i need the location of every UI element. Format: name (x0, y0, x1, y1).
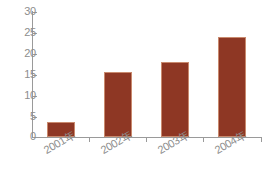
bar-2003[interactable] (161, 62, 189, 137)
bar-2002[interactable] (104, 72, 132, 137)
bar-series (0, 0, 275, 181)
bar-2004[interactable] (218, 37, 246, 137)
bar-chart: 30 25 20 15 10 5 0 2001年 2002年 2003年 200… (0, 0, 275, 181)
